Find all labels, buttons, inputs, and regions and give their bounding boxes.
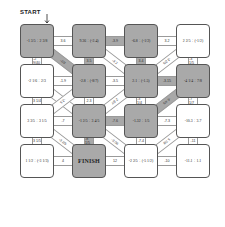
maze-box: -2 1/6 ÷ 2/3 [20, 64, 54, 98]
maze-box: -2.8 ÷ (-8/7) [72, 64, 106, 98]
maze-box: -1 2/5 ÷ 3 4/5 [72, 104, 106, 138]
connector-label: 2 3/7 [111, 97, 119, 105]
maze-box: -6.8 ÷ (-1/2) [124, 24, 158, 58]
horizontal-connector: -7 [53, 116, 73, 126]
connector-label: -3.06 [111, 137, 120, 145]
maze-box: 2 2/5 ÷ (-1/2) [176, 24, 210, 58]
horizontal-connector: -7.3 [157, 116, 177, 126]
connector-label: -3 2/5 [162, 57, 171, 65]
horizontal-connector: -10 [157, 156, 177, 166]
horizontal-connector: 3.6 [53, 36, 73, 46]
maze-box: -10.3 ÷ 3.7 [176, 104, 210, 138]
maze-box: -2 2/5 ÷ (-5 1/2) [124, 144, 158, 178]
maze-box: 2.1 ÷ (-1.5) [124, 64, 158, 98]
connector-label: -2.5 [59, 98, 66, 105]
connector-label: -3 2/5 [58, 137, 67, 145]
maze-box: -11.1 ÷ 1.1 [176, 144, 210, 178]
horizontal-connector: 4 [53, 156, 73, 166]
maze-box: -1 3/5 ÷ 2 3/8 [20, 24, 54, 58]
horizontal-connector: -3.5 [105, 76, 125, 86]
horizontal-connector: -3.15 [157, 76, 177, 86]
maze-box: 3 3/5 ÷ 3 1/5 [20, 104, 54, 138]
connector-label: -3.2 [111, 58, 118, 65]
horizontal-connector: 12 [105, 156, 125, 166]
maze-box: -1.32 ÷ 1/5 [124, 104, 158, 138]
horizontal-connector: 3.2 [157, 36, 177, 46]
horizontal-connector: -7.6 [105, 116, 125, 126]
maze-box: 1 1/2 ÷ (-3 1/3) [20, 144, 54, 178]
connector-label: 5 7/8 [163, 137, 171, 145]
horizontal-connector: -1.9 [53, 76, 73, 86]
connector-label: -2/3 [59, 58, 66, 65]
maze-box: -4 1/4 ÷ 7/8 [176, 64, 210, 98]
maze-grid: -2/3-3.2-3 2/53.52 3/7-6 4/5-2.5-3 2/5-3… [0, 0, 225, 227]
horizontal-connector: -3.9 [105, 36, 125, 46]
maze-box: 9.36 ÷ (-2.4) [72, 24, 106, 58]
connector-label: -6 4/5 [162, 97, 171, 105]
finish-box: FINISH [72, 144, 106, 178]
